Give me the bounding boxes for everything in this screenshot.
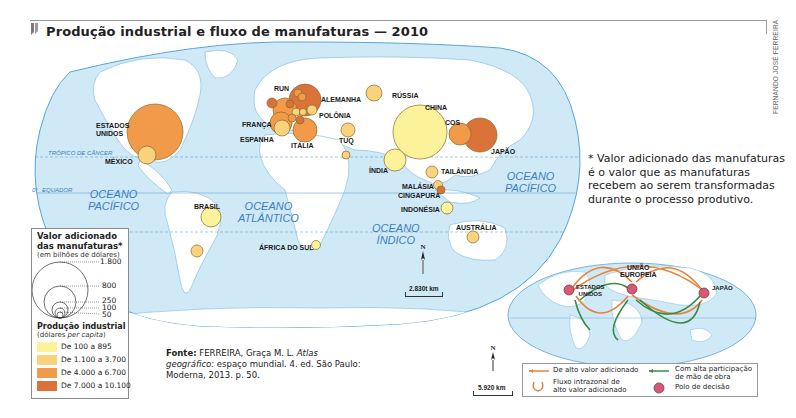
legend-intrazonal: Fluxo intrazonal dealto valor adicionado <box>553 379 626 394</box>
orange-arrow-icon <box>527 368 551 374</box>
pole-icon <box>653 382 665 394</box>
intrazonal-icon <box>531 379 545 393</box>
svg-text:N: N <box>490 344 495 352</box>
flow-map-scale: 5.920 km <box>473 384 511 396</box>
legend-labor: Com alta participaçãode mão de obra <box>675 366 752 381</box>
pole-japao <box>699 288 709 298</box>
flow-north-arrow-icon: N <box>488 343 498 373</box>
flow-label-japao: JAPÃO <box>712 285 733 292</box>
flow-label-estados-unidos: ESTADOSUNIDOS <box>576 284 605 297</box>
pole-uniao-europeia <box>627 284 637 294</box>
legend-high-value: De alto valor adicionado <box>553 367 638 375</box>
pole-estados-unidos <box>564 285 574 295</box>
flow-legend: De alto valor adicionado Fluxo intrazona… <box>522 363 758 397</box>
legend-pole: Polo de decisão <box>675 384 729 392</box>
flow-label-uniao-europeia: UNIÃOEUROPEIA <box>620 265 657 278</box>
green-arrow-icon <box>647 368 671 374</box>
flow-map <box>0 0 796 418</box>
